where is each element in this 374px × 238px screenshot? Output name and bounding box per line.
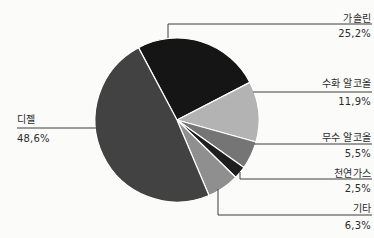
slice-value-hydrated-alcohol: 11,9% xyxy=(338,96,371,107)
pie-chart-figure: 가솔린 25,2% 수화 알코올 11,9% 무수 알코올 5,5% 천연가스 … xyxy=(0,0,374,238)
slice-value-diesel: 48,6% xyxy=(17,133,50,144)
slice-label-hydrated-alcohol: 수화 알코올 xyxy=(322,78,371,89)
slice-value-anhydrous-alcohol: 5,5% xyxy=(345,148,371,159)
slice-value-natural-gas: 2,5% xyxy=(345,183,371,194)
slice-label-gasoline: 가솔린 xyxy=(343,13,371,24)
slice-value-gasoline: 25,2% xyxy=(338,28,371,39)
slice-value-other: 6,3% xyxy=(345,220,371,231)
slice-label-diesel: 디젤 xyxy=(17,114,35,125)
slice-label-other: 기타 xyxy=(353,203,371,214)
pie-chart-canvas xyxy=(0,0,374,238)
slice-label-natural-gas: 천연가스 xyxy=(334,168,371,179)
slice-label-anhydrous-alcohol: 무수 알코올 xyxy=(322,132,371,143)
